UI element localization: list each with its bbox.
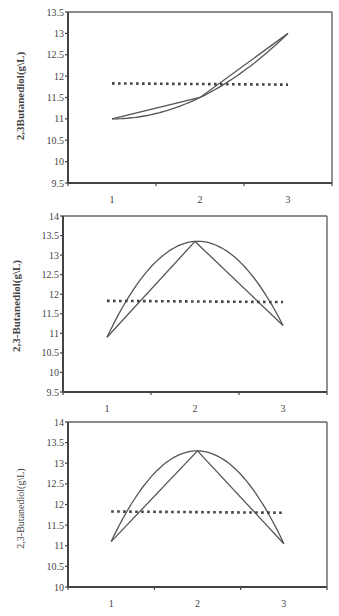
x-tick-label: 2: [195, 598, 200, 609]
fitted-curve: [111, 451, 284, 544]
x-tick-label: 1: [109, 598, 114, 609]
chart-3: 1010.51111.51212.51313.514123 2,3-Butane…: [0, 0, 339, 616]
y-tick-label: 13.5: [47, 437, 65, 448]
chart-3-plot: 1010.51111.51212.51313.514123: [0, 0, 339, 616]
y-tick-label: 10.5: [47, 561, 65, 572]
y-tick-label: 12: [54, 499, 64, 510]
chart-3-y-axis-label: 2,3-Butanediol(g\L): [15, 449, 26, 569]
y-tick-label: 11.5: [47, 520, 64, 531]
y-tick-label: 13: [54, 458, 64, 469]
y-tick-label: 12.5: [47, 478, 65, 489]
y-tick-label: 10: [54, 582, 64, 593]
y-tick-label: 11: [54, 540, 64, 551]
mean-dotted-line: [111, 512, 284, 513]
y-tick-label: 14: [54, 417, 64, 428]
x-tick-label: 3: [281, 598, 286, 609]
